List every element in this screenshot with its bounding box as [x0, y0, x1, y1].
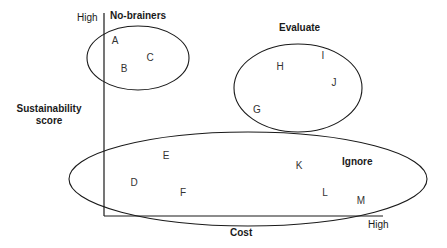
y-axis-title-line-2: score [14, 115, 84, 127]
point-g: G [253, 104, 261, 116]
point-i: I [322, 50, 325, 62]
point-k: K [296, 160, 303, 172]
x-axis-title: Cost [230, 227, 252, 239]
point-l: L [322, 187, 328, 199]
y-axis-title-line-1: Sustainability [14, 103, 84, 115]
no-brainers-ellipse [87, 26, 189, 90]
x-axis-high-label: High [368, 219, 389, 231]
point-d: D [130, 177, 137, 189]
evaluate-ellipse [234, 44, 362, 132]
point-a: A [112, 35, 119, 47]
y-axis-high-label: High [77, 12, 98, 24]
point-c: C [146, 52, 153, 64]
group-label-ignore: Ignore [342, 156, 373, 168]
ignore-ellipse [69, 132, 427, 226]
group-label-no-brainers: No-brainers [110, 10, 166, 22]
y-axis-title: Sustainability score [14, 103, 84, 127]
point-m: M [357, 195, 365, 207]
point-b: B [121, 63, 128, 75]
point-j: J [332, 77, 337, 89]
point-h: H [276, 61, 283, 73]
point-e: E [163, 150, 170, 162]
group-label-evaluate: Evaluate [279, 22, 320, 34]
point-f: F [180, 187, 186, 199]
